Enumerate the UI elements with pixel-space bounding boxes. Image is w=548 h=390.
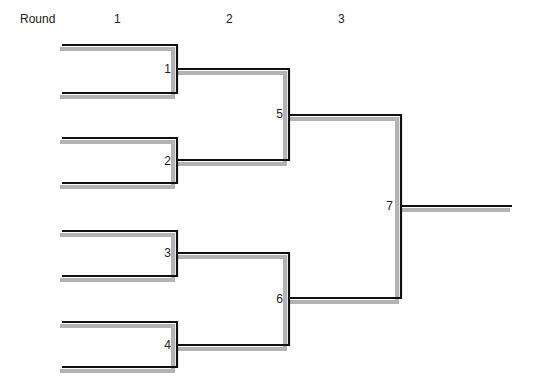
match-label-4: 4 bbox=[151, 338, 171, 352]
bracket-lines bbox=[0, 0, 548, 390]
match-label-2: 2 bbox=[151, 154, 171, 168]
match-label-3: 3 bbox=[151, 246, 171, 260]
match-label-5: 5 bbox=[263, 107, 283, 121]
match-label-1: 1 bbox=[151, 62, 171, 76]
match-label-7: 7 bbox=[373, 199, 393, 213]
match-label-6: 6 bbox=[263, 292, 283, 306]
